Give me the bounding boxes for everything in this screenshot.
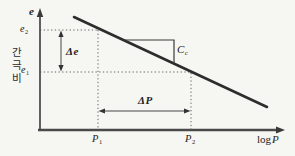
e1-sub: 1 xyxy=(26,69,29,76)
y-axis-title-text: e xyxy=(29,5,34,17)
x-axis-title: log P xyxy=(257,134,279,145)
cc-label: Cc xyxy=(177,44,188,57)
void-ratio-vertical-label: 간극비 xyxy=(9,47,24,86)
y-axis-title: e xyxy=(29,6,34,17)
cc-sub: c xyxy=(185,49,188,56)
x-axis-title-log: log xyxy=(257,133,271,145)
delta-e-label: Δe xyxy=(66,46,79,57)
p2-tick-label: P2 xyxy=(185,134,195,146)
virgin-compression-line xyxy=(74,17,267,107)
chart-canvas xyxy=(0,0,295,156)
delta-p-label: ΔP xyxy=(138,95,153,106)
y-axis-arrowhead-icon xyxy=(37,8,43,17)
p2-sub: 2 xyxy=(192,138,195,145)
delta-e-arrow-down-icon xyxy=(58,65,63,72)
e-logp-consolidation-figure: e e2 e1 간극비 Δe Cc ΔP P1 P2 log P xyxy=(0,0,295,156)
cc-base: C xyxy=(177,43,184,55)
delta-p-arrow-left-icon xyxy=(99,108,106,113)
delta-p-arrow-right-icon xyxy=(184,108,191,113)
p2-base: P xyxy=(185,133,191,144)
p1-base: P xyxy=(92,133,98,144)
p1-tick-label: P1 xyxy=(92,134,102,146)
e2-base: e xyxy=(20,23,24,34)
delta-e-arrow-up-icon xyxy=(58,31,63,38)
e2-sub: 2 xyxy=(25,28,28,35)
p1-sub: 1 xyxy=(99,138,102,145)
e2-tick-label: e2 xyxy=(20,24,28,35)
x-axis-title-var: P xyxy=(272,133,279,145)
